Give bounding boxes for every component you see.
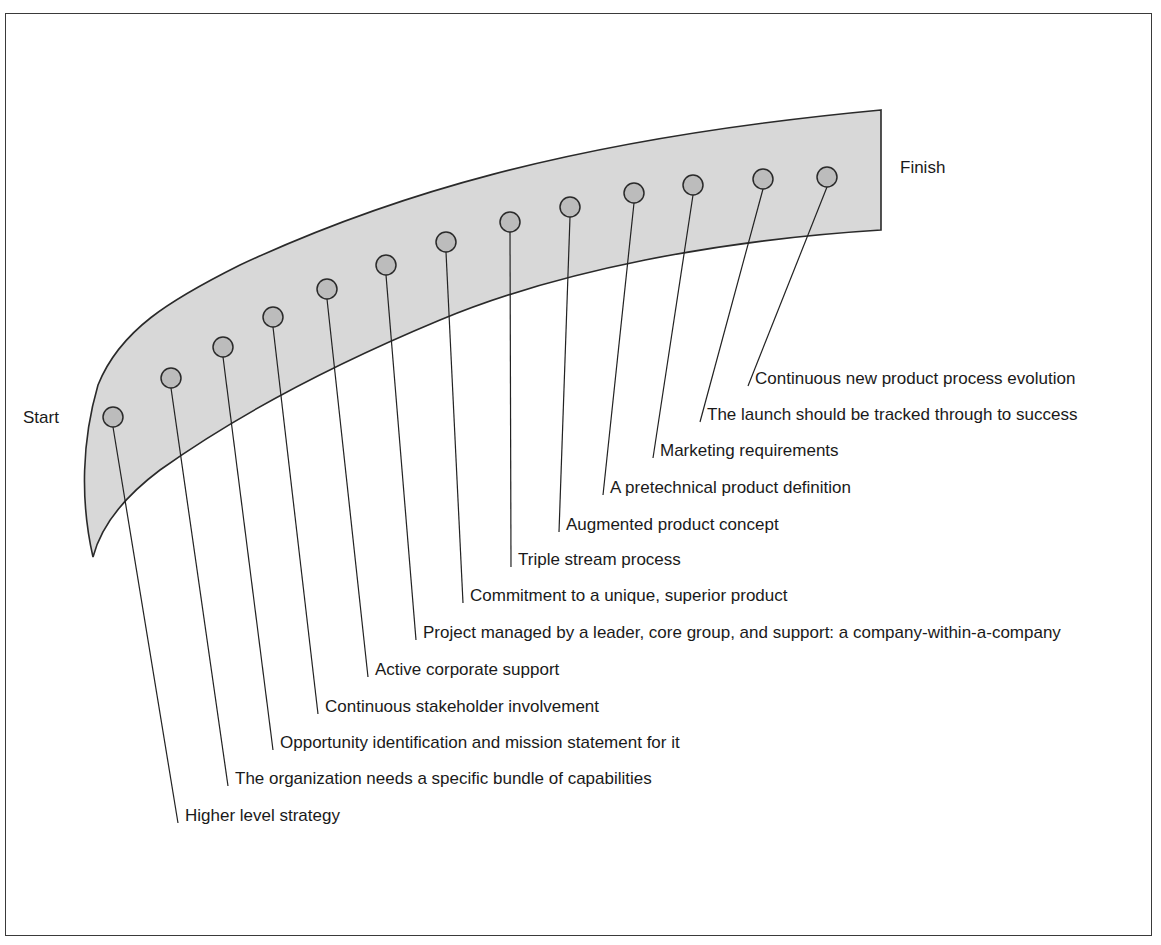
milestone-labels: Higher level strategyThe organization ne… (185, 369, 1077, 825)
milestone-label: Continuous new product process evolution (755, 369, 1075, 388)
milestone-label: Marketing requirements (660, 441, 839, 460)
milestone-label: Triple stream process (518, 550, 681, 569)
milestone-label: The launch should be tracked through to … (707, 405, 1077, 424)
milestone-node-icon (161, 368, 181, 388)
milestone-label: The organization needs a specific bundle… (235, 769, 652, 788)
milestone-node-icon (560, 197, 580, 217)
leader-line (113, 427, 178, 823)
milestone-node-icon (624, 183, 644, 203)
milestone-node-icon (376, 255, 396, 275)
milestone-node-icon (317, 279, 337, 299)
milestone-label: Commitment to a unique, superior product (470, 586, 788, 605)
milestone-node-icon (213, 337, 233, 357)
milestone-label: Project managed by a leader, core group,… (423, 623, 1061, 642)
milestone-node-icon (436, 232, 456, 252)
milestone-label: Higher level strategy (185, 806, 340, 825)
leader-line (223, 357, 273, 750)
milestone-node-icon (500, 212, 520, 232)
milestone-node-icon (683, 175, 703, 195)
leader-line (171, 388, 228, 786)
milestone-label: A pretechnical product definition (610, 478, 851, 497)
milestone-node-icon (263, 307, 283, 327)
milestone-label: Continuous stakeholder involvement (325, 697, 599, 716)
process-path-diagram: Higher level strategyThe organization ne… (0, 0, 1161, 945)
milestone-node-icon (753, 169, 773, 189)
milestone-label: Active corporate support (375, 660, 560, 679)
start-label: Start (23, 408, 59, 427)
milestone-node-icon (103, 407, 123, 427)
milestone-label: Augmented product concept (566, 515, 779, 534)
finish-label: Finish (900, 158, 945, 177)
milestone-label: Opportunity identification and mission s… (280, 733, 680, 752)
milestone-node-icon (817, 167, 837, 187)
